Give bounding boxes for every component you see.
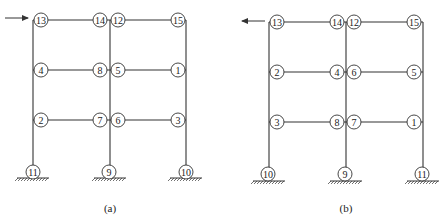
node-4: 4 bbox=[330, 65, 344, 79]
node-10: 10 bbox=[261, 167, 275, 181]
figure-caption: (a) bbox=[104, 202, 117, 215]
node-label: 10 bbox=[181, 167, 191, 178]
node-4: 4 bbox=[34, 63, 48, 77]
node-label: 1 bbox=[412, 117, 417, 128]
node-15: 15 bbox=[407, 15, 421, 29]
frame-b: 131412152465387110911(b) bbox=[242, 15, 439, 215]
node-label: 7 bbox=[98, 115, 103, 126]
node-label: 2 bbox=[275, 67, 280, 78]
node-6: 6 bbox=[111, 113, 125, 127]
node-1: 1 bbox=[407, 115, 421, 129]
node-label: 6 bbox=[352, 67, 357, 78]
node-2: 2 bbox=[270, 65, 284, 79]
node-7: 7 bbox=[347, 115, 361, 129]
node-label: 8 bbox=[335, 117, 340, 128]
node-2: 2 bbox=[34, 113, 48, 127]
node-label: 12 bbox=[349, 17, 359, 28]
node-label: 12 bbox=[113, 15, 123, 26]
node-label: 3 bbox=[176, 115, 181, 126]
node-9: 9 bbox=[102, 165, 116, 179]
node-label: 15 bbox=[173, 15, 183, 26]
node-label: 13 bbox=[272, 17, 282, 28]
node-3: 3 bbox=[270, 115, 284, 129]
node-label: 2 bbox=[39, 115, 44, 126]
node-3: 3 bbox=[171, 113, 185, 127]
node-5: 5 bbox=[111, 63, 125, 77]
node-8: 8 bbox=[330, 115, 344, 129]
node-8: 8 bbox=[93, 63, 107, 77]
node-label: 8 bbox=[98, 65, 103, 76]
node-label: 11 bbox=[417, 169, 427, 180]
node-label: 5 bbox=[116, 65, 121, 76]
node-label: 4 bbox=[39, 65, 44, 76]
node-label: 9 bbox=[343, 169, 348, 180]
node-12: 12 bbox=[111, 13, 125, 27]
node-14: 14 bbox=[93, 13, 107, 27]
node-label: 14 bbox=[332, 17, 342, 28]
node-label: 15 bbox=[409, 17, 419, 28]
node-13: 13 bbox=[34, 13, 48, 27]
node-label: 13 bbox=[36, 15, 46, 26]
node-label: 7 bbox=[352, 117, 357, 128]
node-label: 4 bbox=[335, 67, 340, 78]
node-10: 10 bbox=[179, 165, 193, 179]
node-14: 14 bbox=[330, 15, 344, 29]
node-11: 11 bbox=[26, 165, 40, 179]
figure-caption: (b) bbox=[340, 202, 353, 215]
node-5: 5 bbox=[407, 65, 421, 79]
node-label: 14 bbox=[95, 15, 105, 26]
node-label: 5 bbox=[412, 67, 417, 78]
node-12: 12 bbox=[347, 15, 361, 29]
node-label: 10 bbox=[263, 169, 273, 180]
node-label: 1 bbox=[176, 65, 181, 76]
frame-a: 131412154851276311910(a) bbox=[5, 13, 202, 215]
node-15: 15 bbox=[171, 13, 185, 27]
node-label: 3 bbox=[275, 117, 280, 128]
frame-diagrams: 131412154851276311910(a) 131412152465387… bbox=[0, 0, 440, 216]
node-1: 1 bbox=[171, 63, 185, 77]
node-label: 9 bbox=[107, 167, 112, 178]
node-6: 6 bbox=[347, 65, 361, 79]
node-label: 6 bbox=[116, 115, 121, 126]
node-label: 11 bbox=[28, 167, 38, 178]
node-11: 11 bbox=[415, 167, 429, 181]
node-13: 13 bbox=[270, 15, 284, 29]
node-7: 7 bbox=[93, 113, 107, 127]
node-9: 9 bbox=[338, 167, 352, 181]
